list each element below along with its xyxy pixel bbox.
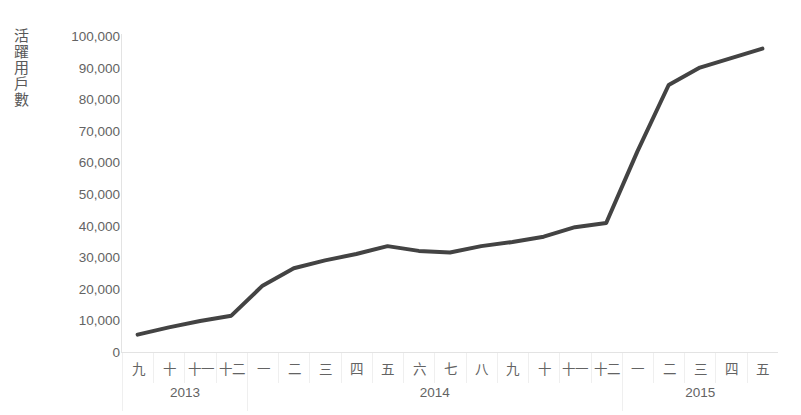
x-axis-month-labels: 九十十一十二一二三四五六七八九十十一十二一二三四五 xyxy=(122,353,778,383)
x-axis-month-label: 十一 xyxy=(184,353,215,383)
y-axis-title-char: 躍 xyxy=(10,44,32,60)
x-axis-month-label: 五 xyxy=(747,353,778,383)
x-axis-month-label: 五 xyxy=(372,353,403,383)
x-axis-year-label: 2015 xyxy=(622,383,778,411)
plot-area xyxy=(122,36,778,352)
y-axis-title-char: 活 xyxy=(10,28,32,44)
x-axis-month-label: 八 xyxy=(466,353,497,383)
x-axis-month-label: 二 xyxy=(278,353,309,383)
x-axis-month-label: 三 xyxy=(309,353,340,383)
x-axis-month-label: 四 xyxy=(341,353,372,383)
y-axis-tick-label: 80,000 xyxy=(79,92,120,107)
y-axis-tick-label: 10,000 xyxy=(79,313,120,328)
y-axis-title-char: 數 xyxy=(10,92,32,108)
x-axis-month-label: 十 xyxy=(153,353,184,383)
y-axis-tick-label: 30,000 xyxy=(79,250,120,265)
x-axis-month-label: 九 xyxy=(497,353,528,383)
y-axis-title: 活躍用戶數 xyxy=(10,28,32,107)
x-axis-month-label: 四 xyxy=(715,353,746,383)
x-axis-month-label: 九 xyxy=(122,353,153,383)
y-axis-tick-label: 50,000 xyxy=(79,187,120,202)
x-axis-month-label: 七 xyxy=(434,353,465,383)
x-axis-month-label: 十二 xyxy=(216,353,247,383)
x-axis-month-label: 三 xyxy=(684,353,715,383)
y-axis-tick-label: 90,000 xyxy=(79,60,120,75)
x-axis-year-label: 2013 xyxy=(122,383,247,411)
y-axis-title-char: 用 xyxy=(10,60,32,76)
y-axis-title-char: 戶 xyxy=(10,76,32,92)
y-axis-tick-label: 100,000 xyxy=(71,29,120,44)
y-axis-tick-label: 60,000 xyxy=(79,155,120,170)
y-axis-tick-labels: 100,00090,00080,00070,00060,00050,00040,… xyxy=(36,0,120,415)
x-axis-month-label: 一 xyxy=(247,353,278,383)
x-axis-month-label: 一 xyxy=(622,353,653,383)
chart-root: 活躍用戶數 100,00090,00080,00070,00060,00050,… xyxy=(0,0,801,415)
y-axis-tick-label: 20,000 xyxy=(79,281,120,296)
y-axis-tick-label: 0 xyxy=(112,345,120,360)
y-axis-tick-label: 70,000 xyxy=(79,123,120,138)
x-axis-year-label: 2014 xyxy=(247,383,622,411)
x-axis-month-label: 十一 xyxy=(559,353,590,383)
x-axis-year-labels: 201320142015 xyxy=(122,383,778,411)
y-axis-tick-label: 40,000 xyxy=(79,218,120,233)
line-series-active-users xyxy=(122,36,778,352)
x-axis-month-label: 二 xyxy=(653,353,684,383)
x-axis-month-label: 十 xyxy=(528,353,559,383)
x-axis-month-label: 六 xyxy=(403,353,434,383)
x-axis-month-label: 十二 xyxy=(591,353,622,383)
